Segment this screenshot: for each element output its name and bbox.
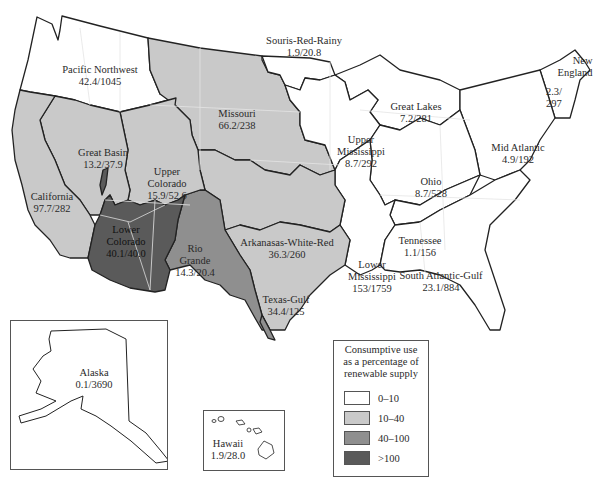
region-value: 42.4/1045 [62,76,138,88]
region-name: Great Basin [78,147,128,159]
region-value: 34.4/125 [262,306,309,318]
label-upper-mississippi: Upper Mississippi 8.7/292 [337,134,385,170]
region-value: 2.3/ [546,86,562,98]
region-name: South Atlantic-Gulf [399,270,482,282]
region-name: New [558,55,593,67]
legend-swatch-white [344,391,370,405]
map-legend: Consumptive use as a percentage of renew… [333,340,429,477]
region-name: Souris-Red-Rainy [266,35,342,47]
label-lower-mississippi: Lower Mississippi 153/1759 [348,259,396,295]
region-value: 0.1/3690 [75,379,112,391]
label-texas-gulf: Texas-Gulf 34.4/125 [262,294,309,318]
label-south-atlantic-gulf: South Atlantic-Gulf 23.1/884 [399,270,482,294]
region-name: Alaska [75,367,112,379]
label-new-england: New England [558,55,593,79]
region-value: 36.3/260 [240,249,333,261]
label-california: California 97.7/282 [31,191,74,215]
label-pacific-northwest: Pacific Northwest 42.4/1045 [62,64,138,88]
region-name: Great Lakes [390,101,441,113]
region-name: Ohio [415,176,447,188]
legend-swatch-light-gray [344,411,370,425]
alaska-shape [11,321,167,469]
label-great-lakes: Great Lakes 7.2/281 [390,101,441,125]
region-name: Rio [175,243,215,255]
legend-item-0-10: 0–10 [344,391,399,405]
legend-title-line: Consumptive use [334,344,428,356]
label-rio-grande: Rio Grande 14.3/20.4 [175,243,215,279]
legend-title-line: as a percentage of [334,356,428,368]
label-souris-red-rainy: Souris-Red-Rainy 1.9/20.8 [266,35,342,59]
region-name: Lower [348,259,396,271]
region-name: Tennessee [399,235,442,247]
region-value: 7.2/281 [390,113,441,125]
region-value: 1.1/156 [399,247,442,259]
label-hawaii: Hawaii 1.9/28.0 [211,438,245,462]
legend-range: 0–10 [378,393,399,404]
region-name-2: Grande [175,255,215,267]
region-value: 23.1/884 [399,282,482,294]
region-value: 1.9/20.8 [266,47,342,59]
region-value: 14.3/20.4 [175,267,215,279]
label-new-england-value: 2.3/ 297 [546,86,562,110]
legend-item-40-100: 40–100 [344,431,410,445]
region-name-2: England [558,67,593,79]
region-name: Missouri [218,108,255,120]
region-value: 66.2/238 [218,120,255,132]
region-value: 8.7/292 [337,158,385,170]
label-missouri: Missouri 66.2/238 [218,108,255,132]
region-value: 97.7/282 [31,203,74,215]
region-name: Lower [106,224,146,236]
region-name: Texas-Gulf [262,294,309,306]
legend-swatch-medium-gray [344,431,370,445]
hawaii-inset: Hawaii 1.9/28.0 [203,410,285,471]
legend-title: Consumptive use as a percentage of renew… [334,344,428,380]
label-alaska: Alaska 0.1/3690 [75,367,112,391]
region-name: Mid Atlantic [491,142,544,154]
region-value: 40.1/40.0 [106,248,146,260]
region-name-2: Mississippi [337,146,385,158]
legend-range: >100 [378,453,400,464]
region-value: 13.2/37.9 [78,159,128,171]
label-lower-colorado: Lower Colorado 40.1/40.0 [106,224,146,260]
region-value: 8.7/528 [415,188,447,200]
region-value: 1.9/28.0 [211,450,245,462]
region-name-2: Colorado [147,178,187,190]
label-upper-colorado: Upper Colorado 15.9/52.6 [147,166,187,202]
legend-title-line: renewable supply [334,368,428,380]
region-name: California [31,191,74,203]
region-value-2: 297 [546,98,562,110]
region-name: Hawaii [211,438,245,450]
legend-range: 40–100 [378,433,410,444]
label-great-basin: Great Basin 13.2/37.9 [78,147,128,171]
label-tennessee: Tennessee 1.1/156 [399,235,442,259]
region-name: Pacific Northwest [62,64,138,76]
label-mid-atlantic: Mid Atlantic 4.9/192 [491,142,544,166]
legend-item-10-40: 10–40 [344,411,404,425]
region-name: Upper [337,134,385,146]
alaska-inset: Alaska 0.1/3690 [10,320,168,470]
region-value: 153/1759 [348,283,396,295]
label-ohio: Ohio 8.7/528 [415,176,447,200]
region-value: 15.9/52.6 [147,190,187,202]
region-name: Upper [147,166,187,178]
region-value: 4.9/192 [491,154,544,166]
region-name: Arkanasas-White-Red [240,237,333,249]
region-name-2: Mississippi [348,271,396,283]
legend-swatch-dark-gray [344,451,370,465]
region-name-2: Colorado [106,236,146,248]
legend-range: 10–40 [378,413,404,424]
label-arkansas-white-red: Arkanasas-White-Red 36.3/260 [240,237,333,261]
legend-item-over-100: >100 [344,451,400,465]
